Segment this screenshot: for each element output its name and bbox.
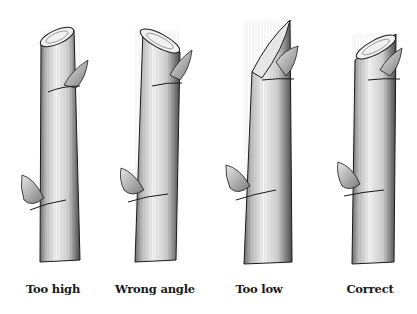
label-too-high: Too high	[26, 282, 80, 296]
pruning-cuts-illustration: Too high Wrong angle Too low Correct	[0, 0, 417, 314]
label-too-low: Too low	[235, 282, 282, 296]
label-wrong-angle: Wrong angle	[115, 282, 195, 296]
stem-wrong-angle	[120, 24, 192, 262]
label-correct: Correct	[346, 282, 393, 296]
stem-too-low	[226, 20, 298, 264]
stems-drawing	[0, 0, 417, 314]
stem-correct	[338, 30, 403, 264]
stem-too-high	[21, 23, 88, 262]
